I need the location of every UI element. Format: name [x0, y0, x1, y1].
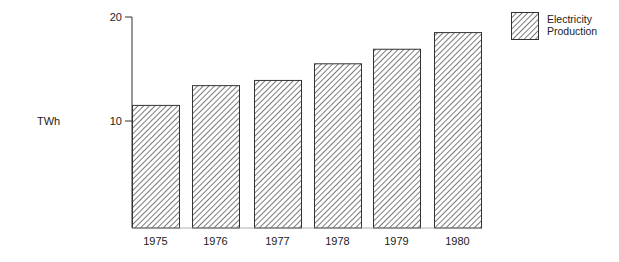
bars-group [133, 33, 482, 228]
y-tick-label: 10 [110, 115, 122, 127]
x-tick-label: 1976 [203, 235, 227, 247]
x-tick-label: 1979 [384, 235, 408, 247]
x-tick-label: 1978 [325, 235, 349, 247]
legend-label-line2: Production [547, 25, 597, 37]
y-ticks: 1020 [110, 11, 132, 127]
bar-1979 [374, 49, 421, 228]
x-tick-label: 1980 [445, 235, 469, 247]
legend-label: Electricity Production [547, 13, 597, 37]
bar-1978 [315, 64, 362, 228]
y-tick-label: 20 [110, 11, 122, 23]
bar-1977 [255, 80, 302, 228]
legend-label-line1: Electricity [547, 13, 597, 25]
x-tick-label: 1977 [265, 235, 289, 247]
bar-1980 [435, 33, 482, 228]
bar-1975 [133, 105, 180, 228]
legend: Electricity Production [511, 12, 597, 40]
x-tick-labels: 197519761977197819791980 [143, 235, 469, 247]
legend-swatch-icon [511, 12, 539, 40]
x-tick-label: 1975 [143, 235, 167, 247]
bar-1976 [193, 86, 240, 228]
